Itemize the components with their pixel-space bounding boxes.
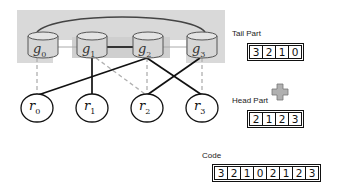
node-sub: 0: [35, 107, 40, 116]
code-cell: 3: [215, 167, 228, 179]
group-label-g0: g0: [33, 41, 46, 59]
code-cell: 2: [267, 167, 280, 179]
group-sub: 2: [146, 50, 151, 59]
group-label-g3: g3: [192, 41, 205, 59]
head-part-boxes: 2 1 2 3: [249, 112, 302, 126]
node-label-r0: r0: [29, 98, 40, 116]
head-part-label: Head Part: [232, 96, 268, 105]
node-label-r3: r3: [194, 98, 205, 116]
tail-part-label: Tail Part: [232, 29, 261, 38]
tail-cell: 2: [263, 46, 276, 58]
tail-part-boxes: 3 2 1 0: [249, 45, 302, 59]
code-label: Code: [202, 151, 221, 160]
group-sub: 0: [41, 50, 46, 59]
head-cell: 2: [250, 113, 263, 125]
group-sub: 3: [200, 50, 205, 59]
head-cell: 1: [263, 113, 276, 125]
node-sub: 1: [90, 107, 95, 116]
code-cell: 0: [254, 167, 267, 179]
plus-icon: [272, 84, 288, 100]
node-sub: 3: [200, 107, 205, 116]
group-sub: 1: [90, 50, 95, 59]
node-label-r1: r1: [84, 98, 95, 116]
code-cell: 1: [280, 167, 293, 179]
code-cell: 2: [228, 167, 241, 179]
head-cell: 2: [276, 113, 289, 125]
code-cell: 3: [306, 167, 318, 179]
node-label-r2: r2: [139, 98, 150, 116]
tail-cell: 3: [250, 46, 263, 58]
tail-cell: 0: [289, 46, 301, 58]
code-boxes: 3 2 1 0 2 1 2 3: [214, 166, 319, 180]
node-sub: 2: [145, 107, 150, 116]
tail-cell: 1: [276, 46, 289, 58]
code-cell: 1: [241, 167, 254, 179]
code-cell: 2: [293, 167, 306, 179]
group-label-g2: g2: [138, 41, 151, 59]
dashed-g1-r2: [96, 58, 145, 94]
head-cell: 3: [289, 113, 301, 125]
diagram-canvas: [0, 0, 348, 190]
group-label-g1: g1: [82, 41, 95, 59]
